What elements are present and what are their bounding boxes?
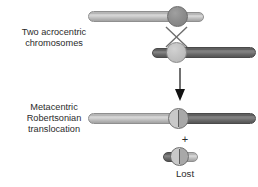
fragment-centromere <box>170 147 189 166</box>
chromosome-1-long-arm <box>88 11 178 22</box>
chromosome-1-centromere <box>167 6 188 27</box>
robertsonian-translocation-figure: Two acrocentric chromosomes Metacentric … <box>0 0 258 187</box>
chromosome-2-long-arm <box>176 47 256 58</box>
chromosome-2-centromere <box>166 42 187 63</box>
label-two-acrocentric-chromosomes: Two acrocentric chromosomes <box>2 27 106 49</box>
product-left-arm <box>88 113 180 124</box>
label-lost: Lost <box>148 168 222 179</box>
plus-sign: + <box>148 134 222 145</box>
product-centromere <box>168 108 189 129</box>
downward-arrow <box>172 68 188 102</box>
